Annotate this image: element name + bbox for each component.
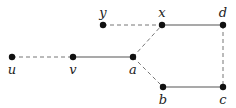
node-label-x: x — [158, 5, 166, 20]
node-label-d: d — [219, 5, 227, 20]
node-label-c: c — [219, 92, 227, 107]
node-c — [220, 84, 226, 90]
node-x — [159, 22, 165, 28]
node-label-v: v — [69, 62, 77, 77]
node-b — [160, 84, 166, 90]
node-u — [9, 54, 15, 60]
node-label-y: y — [98, 5, 107, 20]
node-y — [100, 22, 106, 28]
edge-a-x — [133, 25, 162, 57]
node-label-b: b — [159, 92, 167, 107]
labels-layer: uvayxdbc — [8, 5, 228, 107]
node-a — [130, 54, 136, 60]
node-label-u: u — [8, 62, 16, 77]
node-v — [70, 54, 76, 60]
edge-a-b — [133, 57, 163, 87]
nodes-layer — [9, 22, 226, 90]
node-d — [220, 22, 226, 28]
node-label-a: a — [129, 62, 137, 77]
edges-layer — [12, 25, 223, 87]
graph-diagram: uvayxdbc — [0, 0, 236, 108]
